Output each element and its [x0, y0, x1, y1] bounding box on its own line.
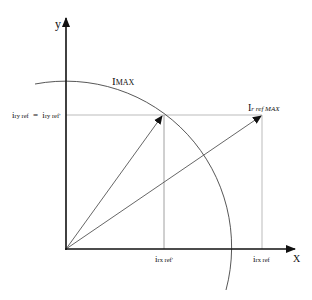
current-limit-diagram: y X IMAX Ir ref MAX iry ref = iry ref' i… [0, 0, 312, 300]
imax-circle-arc [35, 81, 232, 290]
irx-ref-prime-label: irx ref' [155, 254, 173, 264]
iry-ref-label: iry ref = iry ref' [12, 110, 60, 120]
irx-ref-label: irx ref [253, 254, 271, 264]
y-axis-label: y [55, 17, 61, 31]
x-axis-label: X [293, 253, 301, 264]
ir-ref-max-label: Ir ref MAX [248, 102, 280, 113]
vector-ref-max [66, 116, 261, 249]
imax-label: IMAX [112, 75, 135, 87]
vector-limited [66, 116, 162, 249]
